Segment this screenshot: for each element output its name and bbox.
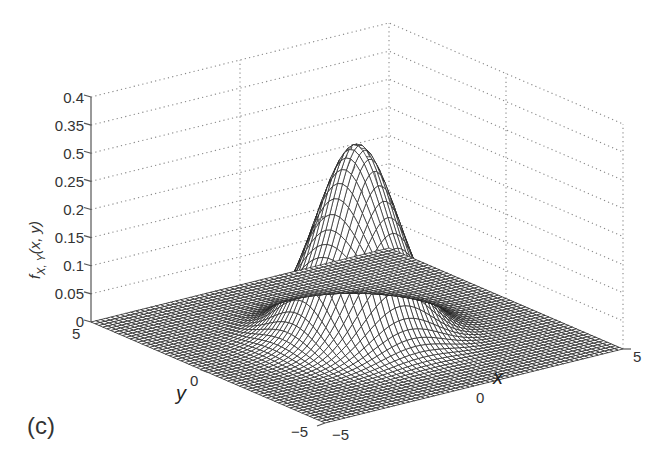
- z-tick-label: 0.2: [63, 201, 84, 218]
- x-tick-5: 5: [633, 348, 641, 365]
- z-label-subscript: X, Y: [35, 254, 47, 276]
- y-tick-0: 0: [190, 372, 198, 389]
- z-tick-mark: [84, 123, 91, 125]
- z-tick-label: 0.5: [63, 145, 84, 162]
- grid-line-z: [91, 23, 623, 124]
- x-tick-0: 0: [476, 389, 484, 406]
- z-tick-mark: [84, 151, 91, 153]
- z-tick-label: 0.35: [55, 117, 84, 134]
- z-tick-label: 0.15: [55, 229, 84, 246]
- x-tick-neg5: −5: [332, 426, 349, 443]
- z-label-args: (x, y): [26, 221, 43, 254]
- z-tick-mark: [84, 236, 91, 238]
- z-tick-label: 0: [76, 313, 84, 330]
- axis-tick-mark: [317, 423, 325, 426]
- z-tick-mark: [84, 264, 91, 266]
- grid-line-z: [91, 51, 623, 152]
- z-axis-label: fX, Y(x, y): [26, 221, 47, 279]
- y-tick-neg5: −5: [291, 423, 308, 440]
- z-tick-labels: 0 0.05 0.1 0.15 0.2 0.25 0.5 0.35 0.4: [55, 89, 84, 330]
- z-tick-mark: [84, 320, 91, 322]
- z-tick-label: 0.25: [55, 173, 84, 190]
- surface-plot: fX, Y(x, y) x y 0 5 −5 −5 0 5 0 0.05 0.1…: [0, 0, 661, 470]
- z-tick-mark: [84, 208, 91, 210]
- z-tick-mark: [84, 95, 91, 97]
- z-tick-label: 0.4: [63, 89, 84, 106]
- panel-label: (c): [27, 412, 55, 440]
- z-tick-mark: [84, 292, 91, 294]
- x-axis-label: x: [492, 366, 504, 388]
- y-axis-label: y: [174, 382, 187, 404]
- gaussian-mesh-surface: [91, 144, 623, 423]
- z-tick-label: 0.05: [55, 285, 84, 302]
- z-tick-mark: [84, 179, 91, 181]
- z-tick-label: 0.1: [63, 257, 84, 274]
